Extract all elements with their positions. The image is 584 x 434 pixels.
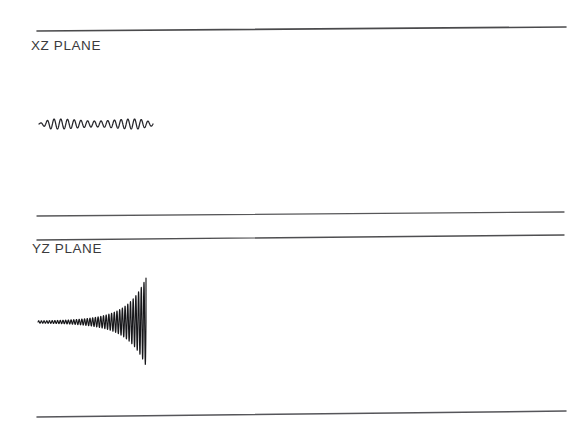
xz-plane-label: XZ PLANE — [31, 39, 101, 53]
yz-plane-label: YZ PLANE — [32, 242, 102, 256]
figure-page: XZ PLANE YZ PLANE — [0, 0, 584, 434]
xz-bottom-rule — [37, 212, 564, 216]
yz-trace-group — [0, 0, 584, 434]
xz-trace-group — [0, 0, 584, 434]
xz-oscillation-trace — [39, 119, 153, 129]
xz-rules-group — [0, 0, 584, 434]
yz-bottom-rule — [37, 411, 566, 417]
yz-rules-group — [0, 0, 584, 434]
yz-diverging-oscillation-trace — [38, 278, 146, 364]
xz-top-rule — [37, 27, 566, 31]
yz-top-rule — [37, 235, 564, 240]
